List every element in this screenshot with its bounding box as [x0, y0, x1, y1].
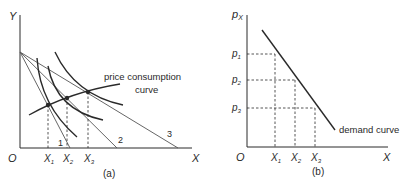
x-tick-b-3: X3	[310, 152, 322, 164]
budget-line-3	[20, 52, 178, 148]
budget-line-label-1: 1	[58, 138, 63, 148]
x-tick-b-1: X1	[270, 152, 281, 164]
x-tick-a-3: X3	[83, 153, 95, 165]
origin-label-b: O	[236, 151, 245, 163]
x-tick-a-1: X1	[43, 153, 54, 165]
panel-b: pX X O p1 p2 p3 X1 X2 X3 demand curve (b…	[231, 8, 399, 177]
caption-b: (b)	[312, 166, 324, 177]
panel-a: Y X O 1 2 3 price consumption curve X1 X…	[8, 10, 200, 179]
x-tick-a-2: X2	[62, 153, 74, 165]
budget-line-label-3: 3	[167, 129, 172, 139]
demand-curve-label: demand curve	[339, 124, 399, 135]
x-axis-label-a: X	[191, 152, 200, 164]
pcc-label-line1: price consumption	[104, 71, 181, 82]
y-axis-label-a: Y	[9, 10, 17, 22]
x-axis-label-b: X	[382, 151, 391, 163]
y-axis-label-b: pX	[231, 8, 243, 21]
diagram-canvas: Y X O 1 2 3 price consumption curve X1 X…	[0, 0, 409, 186]
pcc-label-line2: curve	[135, 84, 158, 95]
budget-line-label-2: 2	[118, 135, 123, 145]
caption-a: (a)	[103, 168, 115, 179]
price-tick-p2: p2	[231, 74, 242, 86]
origin-label-a: O	[8, 152, 17, 164]
demand-curve	[262, 30, 335, 130]
price-tick-p1: p1	[231, 48, 241, 60]
price-tick-p3: p3	[231, 102, 242, 114]
budget-line-2	[20, 52, 117, 148]
indifference-curve-1	[37, 58, 77, 137]
x-tick-b-2: X2	[290, 152, 302, 164]
